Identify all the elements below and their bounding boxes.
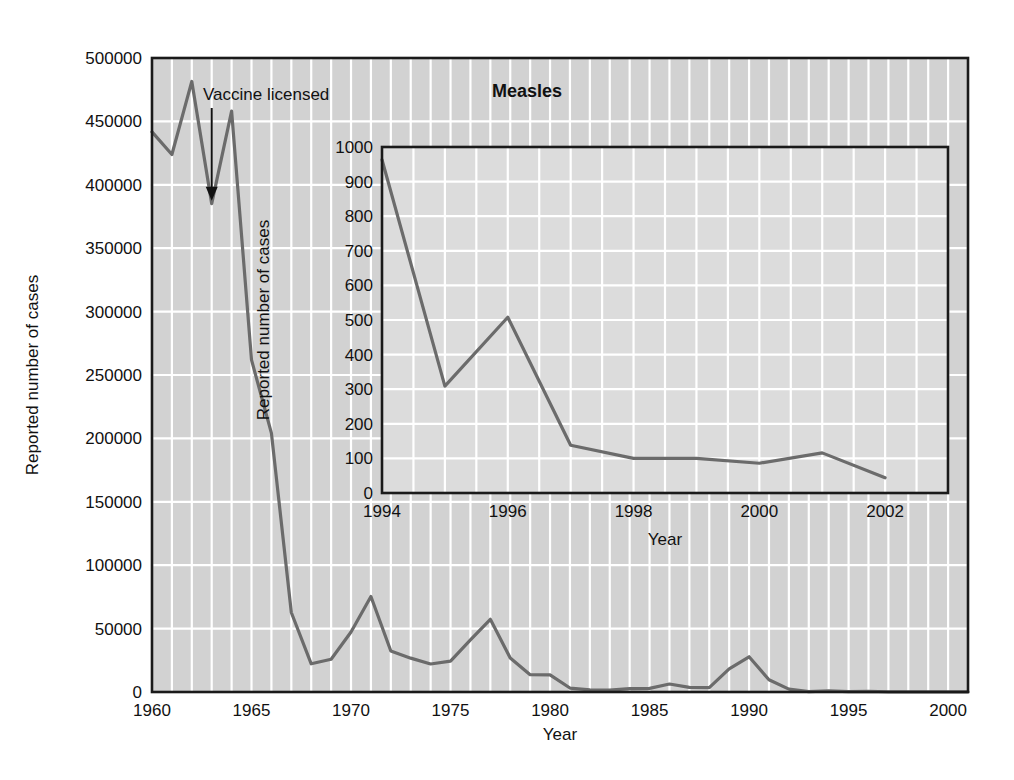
main-y-axis-title: Reported number of cases bbox=[23, 275, 42, 475]
main-y-tick: 500000 bbox=[85, 49, 142, 68]
main-x-tick: 1970 bbox=[332, 701, 370, 720]
main-x-tick: 1990 bbox=[730, 701, 768, 720]
inset-x-tick: 2000 bbox=[740, 502, 778, 521]
inset-y-tick: 900 bbox=[345, 173, 373, 192]
inset-y-tick: 0 bbox=[364, 484, 373, 503]
main-x-tick: 1975 bbox=[432, 701, 470, 720]
main-x-tick: 1960 bbox=[133, 701, 171, 720]
main-y-tick: 0 bbox=[133, 683, 142, 702]
main-y-tick: 200000 bbox=[85, 429, 142, 448]
main-x-tick: 1980 bbox=[531, 701, 569, 720]
main-x-tick-labels: 196019651970197519801985199019952000 bbox=[133, 701, 967, 720]
inset-y-tick: 600 bbox=[345, 276, 373, 295]
vaccine-licensed-label: Vaccine licensed bbox=[203, 85, 329, 104]
inset-y-tick: 100 bbox=[345, 449, 373, 468]
inset-x-axis-title: Year bbox=[648, 530, 683, 549]
main-y-tick: 150000 bbox=[85, 493, 142, 512]
main-y-tick: 400000 bbox=[85, 176, 142, 195]
inset-y-tick: 400 bbox=[345, 346, 373, 365]
inset-y-tick: 1000 bbox=[335, 138, 373, 157]
inset-x-tick: 1994 bbox=[363, 502, 401, 521]
inset-y-tick: 200 bbox=[345, 415, 373, 434]
main-y-tick: 350000 bbox=[85, 239, 142, 258]
main-x-tick: 1965 bbox=[233, 701, 271, 720]
measles-incidence-figure: 0500001000001500002000002500003000003500… bbox=[0, 0, 1014, 780]
inset-y-tick: 700 bbox=[345, 242, 373, 261]
main-y-tick: 300000 bbox=[85, 303, 142, 322]
inset-x-tick: 2002 bbox=[866, 502, 904, 521]
main-y-tick: 450000 bbox=[85, 112, 142, 131]
main-y-tick: 100000 bbox=[85, 556, 142, 575]
main-x-tick: 2000 bbox=[929, 701, 967, 720]
inset-y-axis-title: Reported number of cases bbox=[254, 220, 273, 420]
inset-x-tick: 1996 bbox=[489, 502, 527, 521]
inset-y-tick: 800 bbox=[345, 207, 373, 226]
inset-x-tick: 1998 bbox=[615, 502, 653, 521]
chart-title: Measles bbox=[492, 81, 562, 101]
main-y-tick: 250000 bbox=[85, 366, 142, 385]
inset-y-tick: 500 bbox=[345, 311, 373, 330]
main-x-axis-title: Year bbox=[543, 725, 578, 744]
main-x-tick: 1995 bbox=[830, 701, 868, 720]
main-x-tick: 1985 bbox=[631, 701, 669, 720]
inset-y-tick: 300 bbox=[345, 380, 373, 399]
chart-canvas: 0500001000001500002000002500003000003500… bbox=[0, 0, 1014, 780]
main-y-tick: 50000 bbox=[95, 620, 142, 639]
